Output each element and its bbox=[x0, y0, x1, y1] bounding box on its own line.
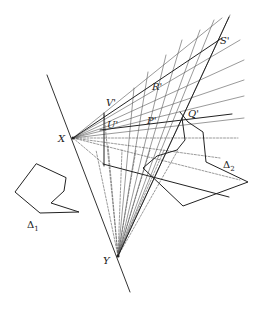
projective-construction-diagram bbox=[0, 0, 261, 309]
delta-1-subscript: 1 bbox=[34, 225, 38, 233]
delta-2-subscript: 2 bbox=[230, 165, 234, 173]
emphasized-lines bbox=[73, 17, 232, 256]
point-x bbox=[71, 136, 74, 139]
label-r-prime: R' bbox=[152, 82, 162, 92]
label-u-prime: U' bbox=[107, 120, 118, 130]
label-x: X bbox=[58, 134, 65, 144]
label-p-prime: P' bbox=[147, 116, 156, 126]
point-y bbox=[116, 254, 119, 257]
label-y: Y bbox=[103, 256, 110, 266]
label-delta-2: Δ2 bbox=[223, 160, 235, 173]
polygon-delta-2 bbox=[143, 112, 248, 206]
polygon-delta-1 bbox=[15, 164, 79, 213]
label-v-prime: V' bbox=[106, 98, 116, 108]
label-s-prime: S' bbox=[220, 36, 230, 46]
label-delta-1: Δ1 bbox=[27, 220, 39, 233]
label-q-prime: Q' bbox=[188, 109, 199, 119]
